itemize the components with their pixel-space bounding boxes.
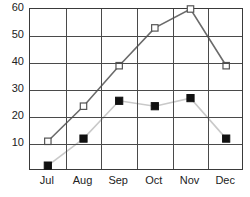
data-point-marker — [151, 103, 158, 110]
line-chart: 102030405060 JulAugSepOctNovDec — [0, 0, 250, 197]
gridline-horizontal — [30, 63, 242, 64]
data-point-marker — [44, 162, 51, 169]
gridline-vertical — [208, 9, 209, 169]
gridline-horizontal — [30, 144, 242, 145]
y-axis-tick-label: 20 — [12, 110, 24, 121]
y-axis-tick-label: 10 — [12, 137, 24, 148]
data-point-marker — [187, 95, 194, 102]
gridline-vertical — [66, 9, 67, 169]
data-point-marker — [223, 135, 230, 142]
y-axis-tick-label: 60 — [12, 2, 24, 13]
gridline-vertical — [137, 9, 138, 169]
gridline-horizontal — [30, 117, 242, 118]
data-point-marker — [80, 103, 86, 109]
x-axis-tick-label: Jul — [29, 174, 65, 194]
data-point-marker — [116, 97, 123, 104]
gridline-vertical — [173, 9, 174, 169]
x-axis-tick-label: Aug — [65, 174, 101, 194]
x-axis-tick-label: Oct — [136, 174, 172, 194]
x-axis-tick-label: Dec — [207, 174, 243, 194]
x-axis-tick-label: Nov — [172, 174, 208, 194]
y-axis-tick-label: 50 — [12, 29, 24, 40]
x-axis-tick-label: Sep — [100, 174, 136, 194]
x-axis-tick-labels: JulAugSepOctNovDec — [29, 174, 243, 194]
data-point-marker — [80, 135, 87, 142]
y-axis-tick-label: 30 — [12, 83, 24, 94]
plot-area — [29, 8, 243, 170]
y-axis-tick-labels: 102030405060 — [0, 0, 26, 197]
data-point-marker — [152, 25, 158, 31]
data-point-marker — [187, 6, 193, 12]
gridline-vertical — [101, 9, 102, 169]
gridline-horizontal — [30, 36, 242, 37]
y-axis-tick-label: 40 — [12, 56, 24, 67]
gridline-horizontal — [30, 90, 242, 91]
